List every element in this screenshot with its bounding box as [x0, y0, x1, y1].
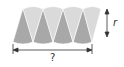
- height-label: r: [113, 18, 117, 28]
- width-label: ?: [50, 53, 55, 63]
- sector-diagram: [0, 0, 124, 67]
- height-arrow: [105, 9, 109, 37]
